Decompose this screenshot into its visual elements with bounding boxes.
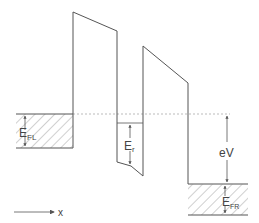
resonance-label: Er: [124, 139, 135, 154]
right-electrode: [188, 184, 248, 215]
bias-label: eV: [219, 146, 234, 160]
band-diagram: EFL Er eV EFR x: [0, 0, 259, 223]
x-axis-label: x: [58, 207, 63, 218]
